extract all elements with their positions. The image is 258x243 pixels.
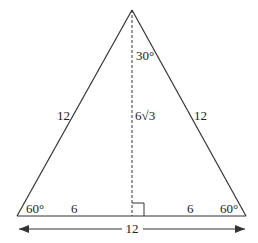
right-base-angle-label: 60° [220,201,238,216]
triangle-diagram: 30° 6√3 12 12 60° 60° 6 6 12 [0,0,258,243]
right-angle-marker [132,203,144,216]
altitude-label: 6√3 [135,108,155,123]
apex-angle-label: 30° [136,48,154,63]
left-side-label: 12 [57,108,70,123]
left-base-angle-label: 60° [26,201,44,216]
base-length-label: 12 [126,221,139,236]
left-half-base-label: 6 [71,201,78,216]
left-side-line [17,10,132,216]
right-half-base-label: 6 [187,201,194,216]
right-side-label: 12 [194,108,207,123]
